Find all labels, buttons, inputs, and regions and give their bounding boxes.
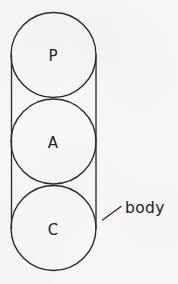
circle-label-a: A <box>48 134 59 152</box>
circle-label-c: C <box>48 221 58 239</box>
body-diagram: P A C body <box>0 0 178 284</box>
diagram-canvas: P A C body <box>0 0 178 284</box>
callout-label-body: body <box>125 199 165 217</box>
circle-label-p: P <box>48 47 57 65</box>
body-callout: body <box>103 199 165 220</box>
circle-labels: P A C <box>48 47 59 239</box>
callout-leader-line <box>103 207 122 221</box>
